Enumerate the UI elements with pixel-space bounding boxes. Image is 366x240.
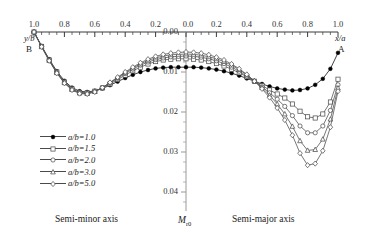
tick-label-left-0.4: 0.4 bbox=[120, 20, 131, 29]
y-axis-title-subscript: r0 bbox=[186, 220, 191, 227]
legend-label: a/b=5.0 bbox=[68, 178, 95, 188]
y-tick-label-0.00: 0.00 bbox=[163, 27, 178, 36]
legend-item-a-b-1.5: a/b=1.5 bbox=[40, 143, 95, 155]
legend-item-a-b-5.0: a/b=5.0 bbox=[40, 177, 95, 189]
tick-label-left-1.0: 1.0 bbox=[29, 20, 40, 29]
legend-label: a/b=2.0 bbox=[68, 155, 95, 165]
legend-item-a-b-3.0: a/b=3.0 bbox=[40, 166, 95, 178]
legend-marker-open-diamond-icon bbox=[40, 178, 66, 189]
y-tick-label-0.02: 0.02 bbox=[163, 107, 178, 116]
x-axis-fraction-label: x/a bbox=[335, 34, 345, 43]
chart-figure: y/b B x/a A 1.00.80.60.40.20.00.20.40.60… bbox=[0, 0, 366, 240]
legend-marker-open-square-icon bbox=[40, 143, 66, 154]
tick-label-right-0.8: 0.8 bbox=[302, 20, 313, 29]
y-tick-label-0.04: 0.04 bbox=[163, 187, 178, 196]
tick-label-center: 0.0 bbox=[183, 20, 194, 29]
y-tick-label-0.03: 0.03 bbox=[163, 147, 178, 156]
tick-label-left-0.2: 0.2 bbox=[150, 20, 161, 29]
legend-marker-open-triangle-icon bbox=[40, 166, 66, 177]
legend-label: a/b=3.0 bbox=[68, 167, 95, 177]
y-axis-title-symbol: M bbox=[178, 215, 186, 225]
tick-label-right-0.2: 0.2 bbox=[211, 20, 222, 29]
plot-canvas bbox=[0, 0, 366, 240]
y-axis-fraction-label: y/b bbox=[24, 34, 34, 43]
legend-label: a/b=1.5 bbox=[68, 143, 95, 153]
y-tick-label-0.01: 0.01 bbox=[163, 67, 178, 76]
tick-label-right-0.4: 0.4 bbox=[241, 20, 252, 29]
tick-label-left-0.6: 0.6 bbox=[89, 20, 100, 29]
tick-label-right-0.6: 0.6 bbox=[272, 20, 283, 29]
tick-label-right-1.0: 1.0 bbox=[333, 20, 344, 29]
tick-label-left-0.8: 0.8 bbox=[59, 20, 70, 29]
endpoint-label-a: A bbox=[338, 45, 345, 54]
legend-label: a/b=1.0 bbox=[68, 132, 95, 142]
legend-marker-open-circle-icon bbox=[40, 154, 66, 165]
legend-marker-filled-circle-icon bbox=[40, 131, 66, 142]
legend-item-a-b-1.0: a/b=1.0 bbox=[40, 131, 95, 143]
legend: a/b=1.0a/b=1.5a/b=2.0a/b=3.0a/b=5.0 bbox=[40, 131, 95, 189]
footer-semi-minor-axis: Semi-minor axis bbox=[55, 215, 118, 225]
footer-semi-major-axis: Semi-major axis bbox=[232, 215, 295, 225]
endpoint-label-b: B bbox=[26, 45, 32, 54]
legend-item-a-b-2.0: a/b=2.0 bbox=[40, 154, 95, 166]
y-axis-title: Mr0 bbox=[178, 216, 191, 227]
